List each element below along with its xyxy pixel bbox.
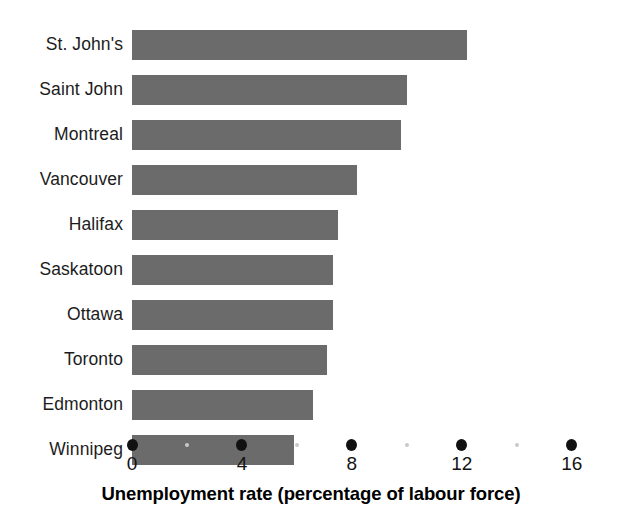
x-minor-tick-dot [405, 443, 409, 447]
category-axis: St. John'sSaint JohnMontrealVancouverHal… [0, 0, 123, 430]
bar-row [132, 165, 602, 195]
value-axis: 0481216 [0, 430, 622, 485]
bar-row [132, 75, 602, 105]
x-minor-tick-dot [185, 443, 189, 447]
category-label: Edmonton [0, 396, 123, 414]
bar-row [132, 300, 602, 330]
category-label: Toronto [0, 351, 123, 369]
x-tick-dot [566, 439, 577, 451]
bar [132, 345, 327, 375]
bar-row [132, 345, 602, 375]
x-tick-label: 4 [212, 454, 272, 473]
bar-row [132, 255, 602, 285]
bar [132, 390, 313, 420]
bar [132, 120, 401, 150]
bar [132, 75, 407, 105]
bar-row [132, 30, 602, 60]
category-label: Ottawa [0, 306, 123, 324]
x-minor-tick-dot [515, 443, 519, 447]
x-tick-label: 16 [542, 454, 602, 473]
bar [132, 30, 467, 60]
bar [132, 165, 357, 195]
x-minor-tick-dot [295, 443, 299, 447]
bar-row [132, 210, 602, 240]
x-tick-dot [346, 439, 357, 451]
x-tick-label: 0 [102, 454, 162, 473]
x-tick-dot [456, 439, 467, 451]
x-tick-label: 12 [432, 454, 492, 473]
category-label: Halifax [0, 216, 123, 234]
bar-chart: St. John'sSaint JohnMontrealVancouverHal… [0, 0, 622, 523]
bar [132, 255, 333, 285]
category-label: Vancouver [0, 171, 123, 189]
x-axis-title: Unemployment rate (percentage of labour … [0, 484, 622, 504]
x-tick-label: 8 [322, 454, 382, 473]
category-label: Montreal [0, 126, 123, 144]
bar-row [132, 390, 602, 420]
x-tick-dot [236, 439, 247, 451]
category-label: Saint John [0, 81, 123, 99]
bar [132, 210, 338, 240]
category-label: Saskatoon [0, 261, 123, 279]
plot-area [132, 0, 602, 430]
bar [132, 300, 333, 330]
category-label: St. John's [0, 36, 123, 54]
x-tick-dot [127, 439, 138, 451]
bar-row [132, 120, 602, 150]
